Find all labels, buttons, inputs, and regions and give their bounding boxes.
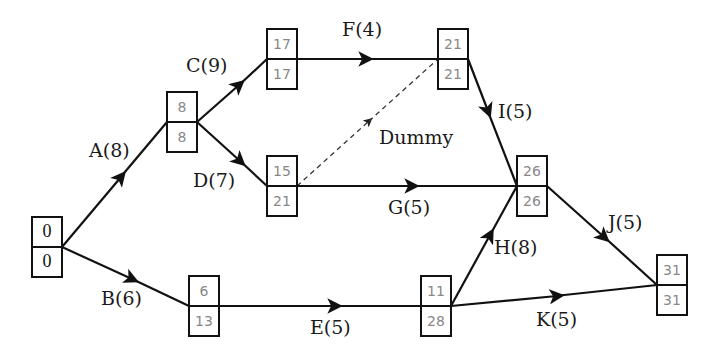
event-node-start: 0 0 [32,217,62,277]
late-time: 28 [427,313,445,329]
late-time: 21 [273,193,291,209]
event-node-1: 8 8 [167,92,197,152]
early-time: 6 [200,283,209,299]
activity-b-label: B(6) [101,287,142,309]
dummy-activity-arrow [297,59,438,186]
early-time: 26 [523,163,541,179]
late-time: 21 [444,66,462,82]
activity-k-arrow [451,285,657,306]
late-time: 17 [273,66,291,82]
late-time: 26 [523,193,541,209]
dummy-label: Dummy [379,126,454,148]
activity-i-label: I(5) [498,100,532,122]
activity-g-label: G(5) [388,196,430,218]
early-time: 11 [427,283,445,299]
early-time: 0 [43,221,52,241]
early-time: 8 [178,99,187,115]
event-node-5: 6 13 [189,276,219,336]
activity-f-label: F(4) [342,18,382,40]
activity-a-label: A(8) [88,139,130,161]
early-time: 17 [273,36,291,52]
activity-k-label: K(5) [536,308,577,330]
activity-h-label: H(8) [494,236,537,258]
activity-e-label: E(5) [310,316,351,338]
activity-i-arrow [468,59,517,186]
network-diagram: 0 0 8 8 17 17 15 21 21 21 6 13 26 26 [0,0,723,358]
network-svg: 0 0 8 8 17 17 15 21 21 21 6 13 26 26 [0,0,723,358]
event-node-2: 17 17 [267,29,297,89]
late-time: 0 [43,251,52,271]
event-node-4: 21 21 [438,29,468,89]
early-time: 21 [444,36,462,52]
early-time: 15 [273,163,291,179]
event-node-3: 15 21 [267,156,297,216]
activity-d-label: D(7) [193,169,235,191]
event-node-7: 11 28 [421,276,451,336]
late-time: 8 [178,129,187,145]
early-time: 31 [663,262,681,278]
late-time: 31 [663,292,681,308]
event-node-6: 26 26 [517,156,547,216]
event-node-end: 31 31 [657,255,687,315]
activity-j-label: J(5) [606,211,643,233]
late-time: 13 [195,313,213,329]
activity-j-arrow [547,186,657,285]
activity-c-label: C(9) [186,54,227,76]
